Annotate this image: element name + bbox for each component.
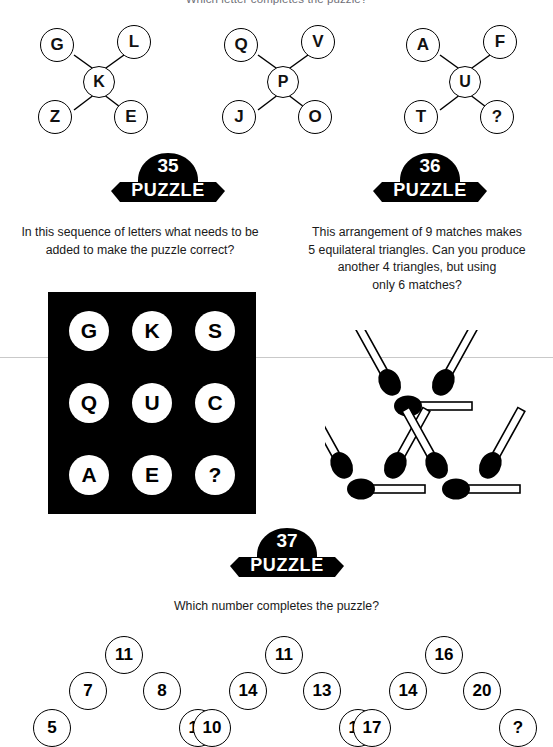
- badge-number: 36: [368, 152, 492, 180]
- question-line: 5 equilateral triangles. Can you produce: [288, 242, 546, 260]
- number-node-mid-right: 20: [463, 672, 501, 710]
- grid-cell: ?: [195, 455, 235, 495]
- letter-node-top-right: V: [301, 25, 335, 59]
- number-node-top: 16: [425, 636, 463, 674]
- letter-node-center: U: [449, 66, 481, 98]
- match-stick: [347, 479, 425, 500]
- letter-node-bottom-left: Z: [38, 100, 72, 134]
- grid-cell: S: [195, 311, 235, 351]
- letter-star-3: A F U T ?: [400, 14, 530, 132]
- puzzle36-question: This arrangement of 9 matches makes 5 eq…: [288, 224, 546, 294]
- match-stick: [442, 479, 520, 500]
- number-node-mid-left: 7: [69, 672, 107, 710]
- number-node-bottom-right: ?: [499, 709, 537, 747]
- number-node-mid-right: 8: [143, 672, 181, 710]
- question-line: another 4 triangles, but using: [288, 259, 546, 277]
- puzzle-badge-35: 35 PUZZLE: [106, 152, 230, 206]
- number-cluster-1: 11 7 8 5 10: [33, 636, 193, 747]
- letter-star-2: Q V P J O: [218, 14, 348, 132]
- letter-node-bottom-right: ?: [480, 100, 514, 134]
- letter-grid-panel: G K S Q U C A E ?: [48, 292, 256, 514]
- match-stick: [325, 404, 358, 482]
- number-cluster-3: 16 14 20 17 ?: [353, 636, 513, 747]
- matchstick-figure: [325, 330, 540, 515]
- badge-word: PUZZLE: [368, 178, 492, 202]
- letter-star-1: G L K Z E: [34, 14, 164, 132]
- number-cluster-2: 11 14 13 10 17: [193, 636, 353, 747]
- puzzle35-question: In this sequence of letters what needs t…: [8, 224, 272, 259]
- letter-node-bottom-right: O: [298, 100, 332, 134]
- question-line: Which number completes the puzzle?: [0, 598, 553, 616]
- number-node-top: 11: [265, 636, 303, 674]
- number-node-bottom-left: 17: [353, 709, 391, 747]
- question-line: In this sequence of letters what needs t…: [8, 224, 272, 242]
- matchstick-arrangement: [325, 330, 540, 515]
- badge-number: 35: [106, 152, 230, 180]
- letter-node-bottom-right: E: [114, 100, 148, 134]
- grid-cell: C: [195, 383, 235, 423]
- page-top-heading: Which letter completes the puzzle?: [0, 0, 553, 5]
- match-stick: [474, 404, 530, 482]
- puzzle-badge-36: 36 PUZZLE: [368, 152, 492, 206]
- match-stick: [427, 330, 483, 400]
- grid-cell: K: [132, 311, 172, 351]
- number-node-top: 11: [105, 636, 143, 674]
- grid-cell: G: [69, 311, 109, 351]
- grid-cell: E: [132, 455, 172, 495]
- number-node-mid-left: 14: [229, 672, 267, 710]
- badge-word: PUZZLE: [106, 178, 230, 202]
- letter-node-top-left: Q: [224, 28, 258, 62]
- grid-cell: U: [132, 383, 172, 423]
- number-node-mid-left: 14: [389, 672, 427, 710]
- number-node-mid-right: 13: [303, 672, 341, 710]
- letter-node-top-left: G: [40, 28, 74, 62]
- question-line: This arrangement of 9 matches makes: [288, 224, 546, 242]
- letter-node-top-left: A: [406, 28, 440, 62]
- puzzle-book-page: Which letter completes the puzzle? G L K…: [0, 0, 553, 747]
- letter-node-top-right: F: [483, 25, 517, 59]
- match-stick: [349, 330, 405, 400]
- number-node-bottom-left: 10: [193, 709, 231, 747]
- question-line: added to make the puzzle correct?: [8, 242, 272, 260]
- letter-node-bottom-left: T: [404, 100, 438, 134]
- question-line: only 6 matches?: [288, 277, 546, 295]
- puzzle37-question: Which number completes the puzzle?: [0, 598, 553, 616]
- letter-node-top-right: L: [117, 25, 151, 59]
- letter-node-center: K: [83, 66, 115, 98]
- letter-node-center: P: [267, 66, 299, 98]
- letter-node-bottom-left: J: [222, 100, 256, 134]
- grid-cell: Q: [69, 383, 109, 423]
- badge-number: 37: [225, 527, 349, 555]
- number-node-bottom-left: 5: [33, 709, 71, 747]
- puzzle-badge-37: 37 PUZZLE: [225, 527, 349, 581]
- badge-word: PUZZLE: [225, 553, 349, 577]
- grid-cell: A: [69, 455, 109, 495]
